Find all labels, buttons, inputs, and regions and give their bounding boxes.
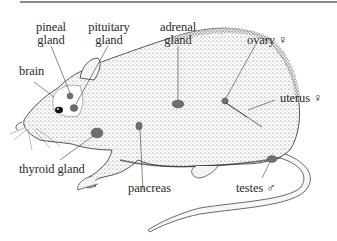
label-thyroid-gland: thyroid gland [19, 163, 85, 176]
label-uterus: uterus ♀ [280, 92, 322, 105]
gland-testes [267, 156, 277, 163]
rat-hind-paw [192, 166, 218, 178]
label-brain: brain [19, 65, 44, 78]
label-ovary: ovary ♀ [247, 34, 287, 47]
label-pituitary-line2: gland [87, 34, 131, 47]
gland-pituitary [70, 105, 78, 112]
rat-eye [55, 107, 63, 113]
label-testes: testes ♂ [236, 182, 275, 195]
label-adrenal-line2: gland [156, 34, 200, 47]
gland-ovary [222, 98, 228, 104]
label-pineal-line2: gland [33, 34, 69, 47]
label-pineal-gland: pineal gland [33, 21, 69, 47]
label-adrenal-gland: adrenal gland [156, 21, 200, 47]
label-pancreas: pancreas [128, 182, 171, 195]
leader-testes [262, 162, 270, 178]
gland-adrenal [172, 100, 184, 108]
label-pituitary-gland: pituitary gland [87, 21, 131, 47]
gland-pineal [67, 93, 73, 99]
leader-brain [34, 82, 54, 97]
gland-pancreas [136, 122, 142, 130]
